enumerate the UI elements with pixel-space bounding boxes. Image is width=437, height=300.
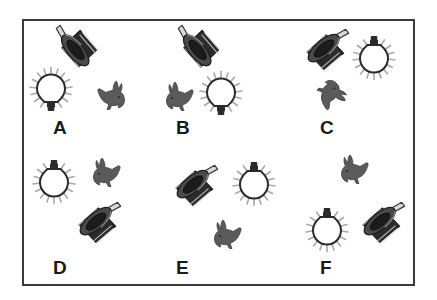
panel-label-b: B: [176, 118, 190, 137]
light-bulb-icon: [305, 203, 349, 253]
rabbit-icon: [309, 74, 353, 117]
figure-canvas: ABCDEF: [0, 0, 437, 300]
top-hat-with-wand-icon: [157, 148, 230, 224]
rabbit-icon: [96, 79, 126, 111]
light-bulb-icon: [199, 70, 243, 120]
puzzle-frame: ABCDEF: [22, 19, 415, 286]
top-hat-with-wand-icon: [344, 185, 417, 261]
rabbit-icon: [340, 153, 370, 185]
panel-label-f: F: [320, 258, 332, 277]
panel-label-d: D: [53, 258, 67, 277]
light-bulb-icon: [232, 157, 276, 207]
light-bulb-icon: [32, 155, 76, 205]
panel-label-a: A: [53, 118, 67, 137]
rabbit-icon: [92, 156, 122, 188]
panel-label-c: C: [320, 118, 334, 137]
panel-label-e: E: [176, 258, 189, 277]
light-bulb-icon: [29, 66, 73, 116]
light-bulb-icon: [352, 31, 396, 81]
rabbit-icon: [165, 80, 195, 112]
rabbit-icon: [213, 218, 243, 250]
